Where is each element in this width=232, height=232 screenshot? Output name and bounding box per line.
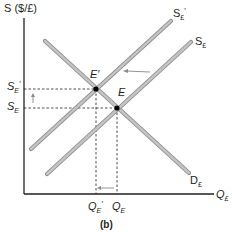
x-axis-label: Q£ xyxy=(216,189,228,200)
equilibrium-point-original xyxy=(114,105,119,110)
shift-arrow-icon xyxy=(123,69,150,73)
supply-original-label: S£ xyxy=(195,36,206,47)
y-axis-label: S ($/£) xyxy=(4,3,37,14)
tick-qe: QE xyxy=(112,201,125,212)
point-e-label: E xyxy=(118,87,125,98)
supply-shifted-label: S£′ xyxy=(173,8,186,19)
point-e-prime-label: E′ xyxy=(90,69,99,80)
quantity-left-arrow-icon xyxy=(97,186,114,190)
supply-curve-shifted xyxy=(31,21,171,149)
equilibrium-point-shifted xyxy=(93,86,98,91)
figure-caption: (b) xyxy=(100,220,113,230)
tick-qe-prime: QE′ xyxy=(88,201,103,212)
demand-label: D£ xyxy=(190,175,202,186)
price-up-arrow-icon xyxy=(31,93,35,103)
tick-se-prime: SE′ xyxy=(7,81,21,92)
tick-se: SE xyxy=(7,101,19,112)
